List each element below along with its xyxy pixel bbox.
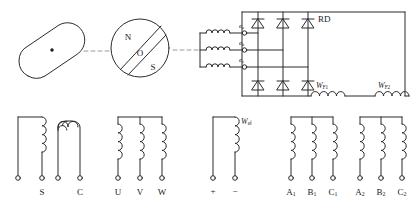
- terminal-dots-uvw: [116, 176, 165, 181]
- terminal-label-u: U: [115, 188, 122, 197]
- terminal-dots-abc1: [289, 176, 336, 181]
- terminal-group-abc1: [291, 117, 337, 176]
- schematic-drawing: [0, 0, 420, 201]
- terminal-label-a2: A2: [355, 188, 364, 198]
- terminal-dots-wef: [211, 176, 238, 181]
- rotor-label-south: S: [150, 63, 155, 72]
- terminal-label-c: C: [77, 188, 83, 197]
- terminal-label-w: W: [158, 188, 167, 197]
- terminal-group-sc: [18, 117, 80, 176]
- terminal-group-uvw: [118, 117, 166, 176]
- terminal-dots-sc: [16, 176, 83, 181]
- field-winding-f2-label: WF2: [378, 82, 390, 90]
- terminal-dots-abc2: [358, 176, 405, 181]
- diagram-canvas: N O S ea eb ec RD WF1 WF2 Wef S C U V W …: [0, 0, 420, 201]
- terminal-label-positive: +: [210, 187, 215, 196]
- field-winding-coil-f1: [311, 92, 345, 96]
- terminal-label-c2: C2: [398, 188, 407, 198]
- field-winding-f1-label: WF1: [316, 82, 328, 90]
- terminal-group-abc2: [360, 117, 406, 176]
- exciter-phase-b-label: eb: [239, 40, 244, 48]
- bridge-input-leads: [247, 33, 308, 67]
- terminal-label-negative: −: [232, 187, 237, 196]
- terminal-label-v: V: [137, 188, 144, 197]
- exciter-phase-a-label: ea: [239, 23, 244, 31]
- exciter-three-phase-windings: [200, 30, 242, 67]
- field-winding-coil-f2: [375, 92, 409, 96]
- salient-pole-rotor-shape: [19, 23, 85, 79]
- bridge-leg-conductors: [258, 12, 308, 96]
- exciter-phase-c-label: ec: [239, 57, 244, 65]
- rotor-label-center: O: [137, 49, 144, 58]
- terminal-label-c1: C1: [329, 188, 338, 198]
- terminal-label-b2: B2: [377, 188, 386, 198]
- rotor-label-north: N: [125, 33, 132, 42]
- terminal-label-a1: A1: [286, 188, 295, 198]
- terminal-label-s: S: [39, 188, 44, 197]
- wef-coil-label: Wef: [241, 118, 252, 126]
- rectifier-label: RD: [318, 15, 331, 24]
- terminal-label-b1: B1: [308, 188, 317, 198]
- terminal-group-wef: [213, 117, 239, 176]
